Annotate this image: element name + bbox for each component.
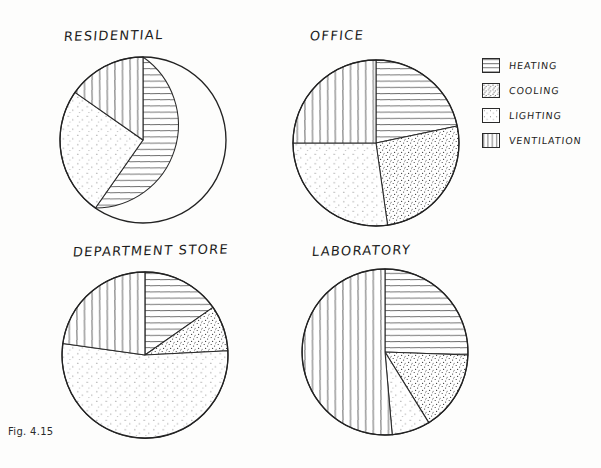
pie-slice-laboratory-ventilation[interactable]: [302, 269, 392, 435]
legend-item-ventilation[interactable]: VENTILATION: [482, 133, 597, 148]
legend-label-ventilation: VENTILATION: [509, 135, 583, 146]
legend-item-cooling[interactable]: COOLING: [482, 83, 597, 98]
pie-slices-laboratory: [302, 269, 468, 435]
figure-canvas: RESIDENTIAL OFFICE DEPARTMENT STORE: [0, 0, 601, 468]
legend-item-heating[interactable]: HEATING: [482, 58, 597, 73]
swatch-vertical-lines-icon: [482, 133, 500, 148]
figure-caption: Fig. 4.15: [8, 426, 53, 437]
swatch-sparse-dots-icon: [482, 108, 500, 123]
legend-item-lighting[interactable]: LIGHTING: [482, 108, 597, 123]
pie-slice-laboratory-heating[interactable]: [385, 269, 468, 355]
swatch-dense-dots-icon: [482, 83, 500, 98]
legend-label-lighting: LIGHTING: [509, 110, 563, 121]
swatch-horizontal-lines-icon: [482, 58, 500, 73]
legend-label-heating: HEATING: [509, 60, 558, 71]
legend-label-cooling: COOLING: [509, 85, 560, 96]
legend: HEATING COOLING LIGHTING: [482, 58, 597, 158]
